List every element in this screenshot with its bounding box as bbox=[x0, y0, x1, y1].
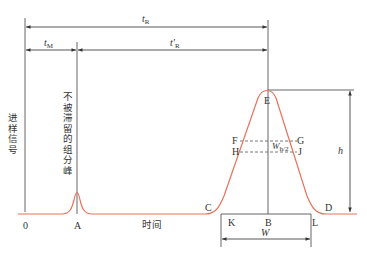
point-f-label: F bbox=[232, 136, 238, 146]
height-label: h bbox=[338, 146, 343, 156]
point-h-label: H bbox=[232, 147, 239, 157]
point-c-label: C bbox=[205, 203, 212, 213]
unretained-peak-label: 不被滞留的组分峰 bbox=[62, 92, 72, 176]
point-d-label: D bbox=[325, 203, 332, 213]
tM-label: tM bbox=[44, 38, 53, 50]
point-a-label: A bbox=[74, 221, 81, 231]
point-k-label: K bbox=[228, 218, 235, 228]
tR-prime-label: t′R bbox=[170, 38, 180, 50]
point-e-label: E bbox=[264, 96, 270, 106]
point-g-label: G bbox=[297, 136, 304, 146]
chromatogram-diagram: 进样信号 不被滞留的组分峰 tR tM t′R E F G H J Wh/2 h… bbox=[0, 0, 367, 258]
injection-signal-label: 进样信号 bbox=[7, 113, 17, 155]
point-l-label: L bbox=[312, 218, 318, 228]
time-axis-label: 时间 bbox=[142, 220, 162, 230]
base-width-label: W bbox=[261, 228, 269, 238]
half-width-label: Wh/2 bbox=[272, 142, 288, 153]
origin-label: 0 bbox=[23, 221, 28, 231]
tR-label: tR bbox=[142, 14, 149, 26]
point-j-label: J bbox=[298, 147, 302, 157]
